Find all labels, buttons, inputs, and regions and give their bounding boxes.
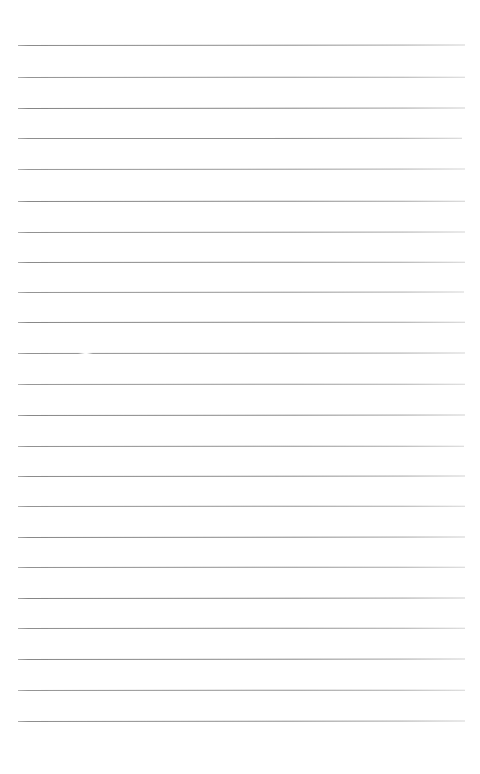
rule-line (18, 232, 465, 233)
rule-line (18, 690, 465, 691)
rule-line (18, 567, 465, 568)
rule-line (18, 322, 465, 323)
lined-paper-page (0, 0, 480, 774)
rule-line (18, 628, 465, 629)
rule-line (18, 598, 465, 599)
rule-line (18, 262, 465, 263)
rule-line (18, 476, 465, 477)
rule-line (18, 446, 464, 447)
rule-line (18, 169, 465, 170)
rule-line (18, 201, 465, 202)
rule-line (18, 384, 465, 385)
rule-line (18, 537, 465, 538)
rule-line (18, 77, 465, 78)
rule-line (18, 45, 465, 46)
rule-line (18, 292, 464, 293)
ruling-area (0, 0, 480, 774)
rule-line (18, 108, 465, 109)
rule-line-break (78, 352, 93, 355)
rule-line (18, 659, 465, 660)
rule-line (18, 721, 465, 722)
rule-line (18, 415, 465, 416)
rule-line (18, 506, 465, 507)
rule-line (18, 138, 462, 139)
